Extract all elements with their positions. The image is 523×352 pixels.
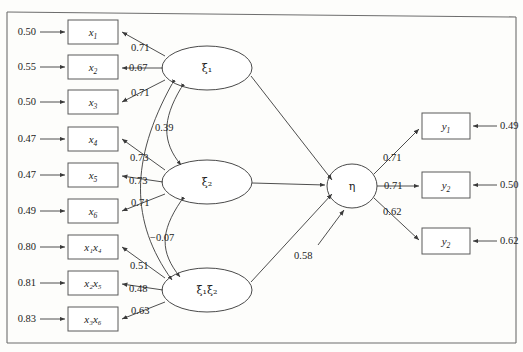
disturbance-value: 0.58 (294, 250, 312, 261)
loading-arrow-eta-y3 (374, 198, 419, 240)
indicator-label: x₃x₆ (83, 313, 102, 325)
indicator-subscript: 1 (94, 32, 98, 41)
error-value-x3: 0.50 (18, 96, 36, 107)
latent-label: η (349, 180, 356, 193)
indicator-box-x5: x5 (68, 163, 118, 187)
outcome-subscript: 2 (447, 241, 451, 250)
covariance-value-xi1-xi2: 0.39 (155, 122, 173, 133)
latent-label: ξ₁ (202, 62, 212, 75)
indicator-box-x3: x3 (68, 90, 118, 114)
loading-value-x2: 0.67 (129, 62, 147, 73)
indicator-label: x₂x₅ (83, 277, 102, 289)
indicator-subscript: 2 (94, 67, 98, 76)
structural-path-xi1-eta (251, 76, 332, 180)
indicator-box-x1x4: x₁x₄ (68, 235, 118, 259)
loading-value-x4: 0.73 (130, 152, 148, 163)
latent-label: ξ₁ξ₂ (197, 284, 218, 297)
indicator-label: x₁x₄ (83, 241, 102, 253)
loading-value-x3x6: 0.63 (131, 305, 149, 316)
error-value-x4: 0.47 (18, 133, 36, 144)
loading-value-x5: 0.73 (129, 175, 147, 186)
indicator-subscript: 3 (93, 102, 98, 111)
loading-value-x1x4: 0.51 (130, 260, 148, 271)
error-value-y3: 0.62 (500, 235, 518, 246)
outcome-subscript: 2 (447, 185, 451, 194)
error-value-x2: 0.55 (18, 61, 36, 72)
structural-path-xi2-eta (252, 183, 325, 185)
error-value-x1x4: 0.80 (18, 241, 36, 252)
top-border-rule (7, 12, 516, 17)
indicator-box-x6: x6 (68, 199, 118, 223)
error-value-x1: 0.50 (18, 26, 36, 37)
figure-canvas: x1 x2 x3 x4 x5 (0, 0, 523, 352)
latent-ellipse-eta: η (327, 164, 377, 208)
latent-label: ξ₂ (202, 176, 212, 189)
sem-path-diagram: x1 x2 x3 x4 x5 (0, 0, 523, 352)
latent-ellipse-xi1xi2: ξ₁ξ₂ (162, 268, 252, 312)
indicator-box-x1: x1 (68, 20, 118, 44)
loading-value-y1: 0.71 (383, 152, 401, 163)
loading-value-y2: 0.71 (384, 180, 402, 191)
disturbance-arrow-eta (318, 210, 344, 245)
loading-value-x2x5: 0.48 (129, 283, 147, 294)
error-value-x3x6: 0.83 (18, 313, 36, 324)
outcome-box-y3: y2 (422, 228, 470, 254)
loading-value-y3: 0.62 (383, 206, 401, 217)
indicator-subscript: 5 (94, 175, 98, 184)
loading-value-x3: 0.71 (131, 87, 149, 98)
error-value-x5: 0.47 (18, 169, 36, 180)
indicator-box-x2x5: x₂x₅ (68, 271, 118, 295)
indicator-box-x3x6: x₃x₆ (68, 307, 118, 331)
latent-ellipse-xi1: ξ₁ (162, 46, 252, 90)
structural-path-xi1xi2-eta (251, 194, 332, 282)
covariance-value-xi2-xi1xi2: −0.07 (150, 232, 174, 243)
latent-ellipse-xi2: ξ₂ (162, 160, 252, 204)
error-value-x6: 0.49 (18, 205, 36, 216)
outcome-box-y1: y1 (422, 113, 470, 139)
error-value-y2: 0.50 (500, 179, 518, 190)
outcome-subscript: 1 (447, 126, 451, 135)
error-value-y1: 0.49 (500, 120, 518, 131)
indicator-box-x4: x4 (68, 127, 118, 151)
loading-value-x1: 0.71 (131, 42, 149, 53)
error-value-x2x5: 0.81 (18, 277, 36, 288)
indicator-subscript: 6 (94, 211, 98, 220)
indicator-subscript: 4 (94, 139, 98, 148)
indicator-box-x2: x2 (68, 55, 118, 79)
outcome-box-y2: y2 (422, 172, 470, 198)
loading-value-x6: 0.71 (131, 197, 149, 208)
